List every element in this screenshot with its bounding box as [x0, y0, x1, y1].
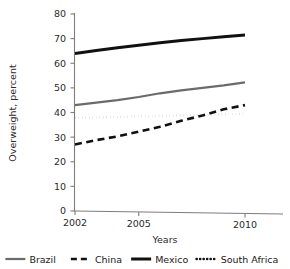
series-line-china	[75, 105, 245, 144]
y-tick-label: 70	[54, 33, 66, 44]
legend-label-mexico: Mexico	[155, 254, 188, 265]
series-line-brazil	[75, 82, 245, 105]
series-line-mexico	[75, 35, 245, 53]
chart-legend: BrazilChinaMexicoSouth Africa	[5, 254, 278, 265]
y-tick-label: 50	[54, 82, 66, 93]
axis-lines	[75, 13, 284, 214]
y-axis-title: Overweight, percent	[7, 64, 18, 162]
y-axis-title-text: Overweight, percent	[7, 64, 18, 162]
legend-label-china: China	[95, 254, 122, 265]
y-axis-ticks: 01020304050607080	[54, 8, 75, 216]
y-tick-label: 80	[54, 8, 66, 19]
x-axis-title-text: Years	[151, 234, 177, 245]
series-line-south-africa	[75, 114, 245, 118]
y-tick-label: 20	[54, 156, 66, 167]
chart-figure: Overweight, percent 01020304050607080 20…	[0, 0, 290, 269]
series-lines	[75, 35, 245, 145]
x-tick-label: 2005	[127, 218, 151, 229]
x-tick-label: 2010	[233, 219, 257, 230]
legend-label-south-africa: South Africa	[221, 254, 279, 265]
y-tick-label: 60	[54, 58, 66, 69]
y-tick-label: 40	[54, 107, 66, 118]
y-tick-label: 30	[54, 132, 66, 143]
x-axis-line	[75, 211, 284, 214]
legend-label-brazil: Brazil	[29, 254, 56, 265]
x-axis-ticks: 200220052010	[63, 211, 257, 230]
y-tick-label: 0	[60, 205, 66, 216]
x-tick-label: 2002	[63, 217, 87, 228]
y-tick-label: 10	[54, 181, 66, 192]
line-chart: Overweight, percent 01020304050607080 20…	[0, 0, 290, 269]
